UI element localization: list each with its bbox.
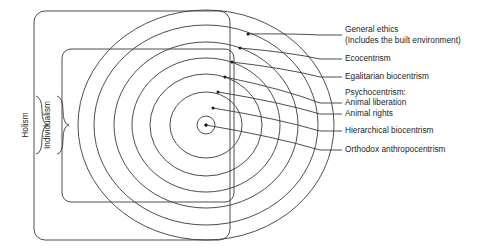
leader-line-hierarchical-biocentrism (213, 108, 342, 131)
label-general-ethics-line-1: General ethics (345, 24, 399, 34)
label-orthodox-anthropocentrism: Orthodox anthropocentrism (345, 144, 446, 154)
leader-line-orthodox-anthropocentrism (206, 125, 342, 150)
ethics-concentric-diagram: HolismIndividualism General ethics(Inclu… (0, 0, 494, 251)
axis-label-holism: Holism (20, 112, 30, 137)
label-egalitarian-biocentrism: Egalitarian biocentrism (345, 71, 429, 81)
leader-dot-animal-liberation (224, 76, 227, 79)
diagram-canvas: HolismIndividualism General ethics(Inclu… (0, 0, 494, 251)
axis-label-individualism: Individualism (42, 101, 52, 149)
leader-line-ecocentrism (240, 48, 342, 59)
label-animal-rights: Animal rights (345, 108, 393, 118)
right-labels-group: General ethics(Includes the built enviro… (345, 24, 461, 154)
outer-boxes-group (34, 11, 234, 240)
individualism-brace (57, 96, 69, 154)
label-animal-liberation: Animal liberation (345, 97, 407, 107)
vertical-axis-labels-group: HolismIndividualism (20, 101, 52, 149)
leader-dot-animal-rights (217, 91, 220, 94)
leader-dot-ecocentrism (239, 47, 242, 50)
leader-dot-egalitarian-biocentrism (231, 61, 234, 64)
leader-line-general-ethics (248, 34, 342, 35)
label-hierarchical-biocentrism: Hierarchical biocentrism (345, 125, 434, 135)
leader-dot-orthodox-anthropocentrism (205, 124, 208, 127)
label-general-ethics-line-2: (Includes the built environment) (345, 35, 461, 45)
label-psychocentrism-header: Psychocentrism: (345, 87, 406, 97)
braces-group (36, 96, 69, 154)
leader-dot-general-ethics (247, 33, 250, 36)
leader-lines-group (205, 33, 343, 151)
label-ecocentrism: Ecocentrism (345, 53, 391, 63)
leader-dot-hierarchical-biocentrism (212, 107, 215, 110)
